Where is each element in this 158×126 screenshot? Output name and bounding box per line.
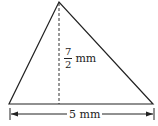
height-fraction: 7 2 <box>64 47 72 70</box>
right-arrowhead-icon <box>146 112 153 117</box>
fraction-numerator: 7 <box>64 47 72 59</box>
left-arrowhead-icon <box>11 112 18 117</box>
fraction-denominator: 2 <box>65 59 71 70</box>
base-label: 5 mm <box>67 108 102 121</box>
height-unit: mm <box>75 52 96 65</box>
height-label: 7 2 mm <box>64 47 96 70</box>
